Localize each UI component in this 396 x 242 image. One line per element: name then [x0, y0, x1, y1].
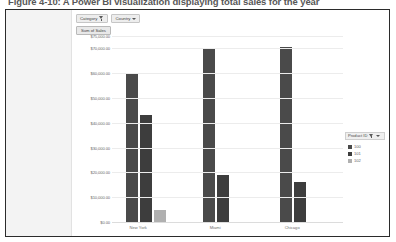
country-filter-dropdown[interactable]: Country — [111, 14, 140, 23]
legend-swatch — [348, 159, 352, 163]
y-axis-tick-label: $75,000.00 — [91, 34, 111, 39]
report-canvas: Category Country Sum of Sales $0.00$10,0… — [5, 9, 390, 237]
bar[interactable] — [203, 48, 215, 222]
left-gutter-panel — [6, 10, 72, 236]
bar[interactable] — [140, 115, 152, 222]
category-filter-dropdown[interactable]: Category — [76, 14, 108, 23]
bar-series-container — [112, 36, 343, 222]
grid-line — [112, 197, 343, 198]
legend-label: 101 — [354, 150, 361, 157]
category-filter-label: Category — [80, 14, 97, 23]
y-axis-tick-label: $40,000.00 — [91, 120, 111, 125]
chevron-down-icon — [132, 18, 136, 20]
x-axis-tick-label: Miami — [210, 225, 221, 230]
legend-title: Product ID — [348, 132, 367, 140]
y-axis: $0.00$10,000.00$20,000.00$30,000.00$40,0… — [76, 36, 110, 222]
plot-area: $0.00$10,000.00$20,000.00$30,000.00$40,0… — [72, 36, 389, 236]
y-axis-tick-label: $20,000.00 — [91, 170, 111, 175]
country-filter-label: Country — [115, 14, 130, 23]
bar[interactable] — [217, 175, 229, 222]
chevron-down-icon — [376, 135, 380, 137]
x-axis-tick-label: New York — [130, 225, 147, 230]
legend-swatch — [348, 152, 352, 156]
legend-item[interactable]: 100 — [345, 143, 385, 150]
bar[interactable] — [154, 210, 166, 222]
y-axis-tick-label: $10,000.00 — [91, 195, 111, 200]
bar[interactable] — [294, 182, 306, 222]
x-axis-tick-label: Chicago — [285, 225, 300, 230]
chart-toolbar: Category Country — [76, 14, 140, 23]
funnel-icon — [99, 16, 104, 22]
grid-line — [112, 172, 343, 173]
y-axis-tick-label: $30,000.00 — [91, 145, 111, 150]
grid-line — [112, 48, 343, 49]
legend-items: 100101102 — [345, 143, 385, 164]
legend-swatch — [348, 145, 352, 149]
grid-line — [112, 98, 343, 99]
grid-line — [112, 36, 343, 37]
figure-caption: Figure 4-10: A Power BI visualization di… — [8, 0, 388, 8]
legend-label: 100 — [354, 143, 361, 150]
bar-group — [280, 36, 306, 222]
grid-line — [112, 222, 343, 223]
y-axis-tick-label: $70,000.00 — [91, 46, 111, 51]
legend-header[interactable]: Product ID — [345, 132, 385, 140]
plot-grid — [112, 36, 343, 222]
bar-group — [126, 36, 166, 222]
legend-item[interactable]: 102 — [345, 157, 385, 164]
bar-group — [203, 36, 229, 222]
legend-item[interactable]: 101 — [345, 150, 385, 157]
y-axis-tick-label: $60,000.00 — [91, 71, 111, 76]
legend-label: 102 — [354, 157, 361, 164]
legend: Product ID 100101102 — [345, 132, 385, 164]
y-axis-tick-label: $50,000.00 — [91, 96, 111, 101]
grid-line — [112, 73, 343, 74]
funnel-icon — [369, 133, 374, 139]
grid-line — [112, 148, 343, 149]
grid-line — [112, 123, 343, 124]
y-axis-tick-label: $0.00 — [100, 220, 110, 225]
